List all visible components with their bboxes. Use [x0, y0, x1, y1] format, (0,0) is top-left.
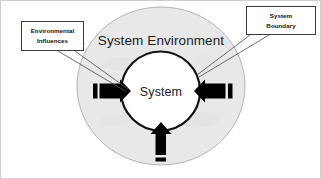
system-environment-label: System Environment	[98, 33, 224, 48]
system-label: System	[140, 85, 182, 99]
callout-system-boundary-line2: Boundary	[266, 21, 295, 31]
callout-environmental-influences-line1: Environmental	[31, 26, 75, 36]
callout-environmental-influences-line2: Influences	[37, 36, 68, 46]
diagram-canvas: System Environment System Environmental …	[0, 0, 321, 179]
callout-system-boundary-line1: System	[270, 11, 292, 21]
callout-environmental-influences: Environmental Influences	[21, 21, 84, 51]
callout-system-boundary: System Boundary	[246, 6, 316, 35]
